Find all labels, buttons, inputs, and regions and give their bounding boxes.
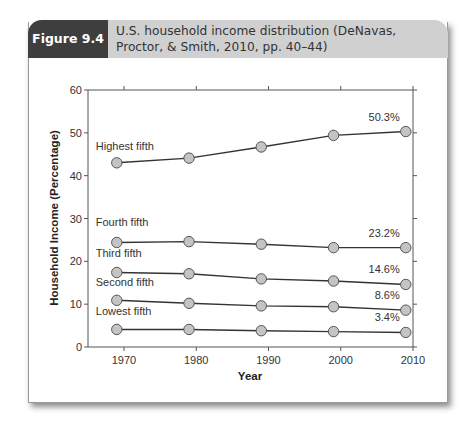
y-tick-label: 20 [70, 255, 82, 267]
data-point-marker [184, 269, 194, 279]
series-label: Third fifth [96, 247, 142, 259]
data-point-marker [256, 301, 266, 311]
x-axis-title: Year [238, 370, 263, 382]
data-point-marker [256, 274, 266, 284]
series-end-value: 23.2% [369, 227, 400, 239]
y-tick-label: 60 [70, 84, 82, 96]
series-end-value: 8.6% [375, 289, 400, 301]
data-point-marker [256, 142, 266, 152]
data-point-marker [256, 326, 266, 336]
data-point-marker [328, 242, 338, 252]
data-point-marker [328, 326, 338, 336]
series-end-value: 50.3% [369, 111, 400, 123]
series-label: Lowest fifth [96, 305, 152, 317]
data-point-marker [184, 153, 194, 163]
data-point-marker [184, 298, 194, 308]
data-point-marker [401, 126, 411, 136]
x-tick-label: 1980 [184, 354, 208, 366]
data-point-marker [184, 324, 194, 334]
y-axis-title: Household Income (Percentage) [48, 130, 60, 306]
y-tick-label: 10 [70, 298, 82, 310]
line-chart: 010203040506019701980199020002010YearHou… [0, 0, 471, 426]
data-point-marker [401, 305, 411, 315]
data-point-marker [184, 236, 194, 246]
series-label: Second fifth [96, 276, 154, 288]
y-tick-label: 0 [76, 341, 82, 353]
data-point-marker [328, 302, 338, 312]
y-tick-label: 40 [70, 170, 82, 182]
series-label: Highest fifth [96, 140, 154, 152]
data-point-marker [401, 242, 411, 252]
data-point-marker [401, 279, 411, 289]
series-end-value: 3.4% [375, 311, 400, 323]
data-point-marker [112, 295, 122, 305]
data-point-marker [328, 130, 338, 140]
series-end-value: 14.6% [369, 263, 400, 275]
data-point-marker [112, 237, 122, 247]
data-point-marker [256, 239, 266, 249]
data-point-marker [328, 276, 338, 286]
y-tick-label: 50 [70, 127, 82, 139]
data-point-marker [401, 327, 411, 337]
series-label: Fourth fifth [96, 216, 149, 228]
x-tick-label: 2000 [329, 354, 353, 366]
x-tick-label: 1990 [256, 354, 280, 366]
data-point-marker [112, 158, 122, 168]
x-tick-label: 1970 [112, 354, 136, 366]
data-point-marker [112, 324, 122, 334]
y-tick-label: 30 [70, 213, 82, 225]
x-tick-label: 2010 [401, 354, 425, 366]
